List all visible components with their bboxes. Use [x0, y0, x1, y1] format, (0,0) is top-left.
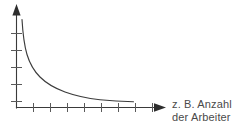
y-axis-arrowhead [12, 4, 20, 16]
x-axis-label-line2: der Arbeiter [172, 111, 231, 125]
x-axis-arrowhead [154, 103, 166, 112]
x-axis-label-line1: z. B. Anzahl [172, 98, 232, 112]
antiproportional-curve [22, 20, 134, 102]
chart-figure: z. B. Anzahl der Arbeiter [0, 0, 238, 131]
